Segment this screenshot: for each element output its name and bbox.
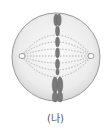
figure-label: (나) <box>0 110 111 125</box>
centriole-left-icon <box>19 54 25 59</box>
centriole-right-icon <box>88 54 94 59</box>
